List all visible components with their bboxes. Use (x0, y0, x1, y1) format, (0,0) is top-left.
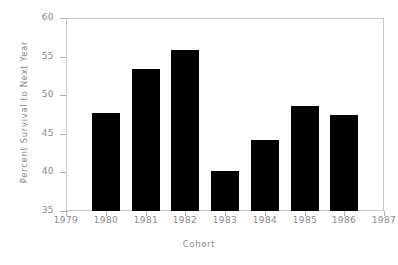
x-tick-label: 1981 (126, 215, 166, 225)
y-tick-label: 35 (28, 205, 54, 215)
x-tick-label: 1982 (165, 215, 205, 225)
x-tick-label: 1984 (245, 215, 285, 225)
x-tick-label: 1983 (205, 215, 245, 225)
x-tick-label: 1979 (46, 215, 86, 225)
y-tick-label: 40 (28, 166, 54, 176)
bar-1983[interactable] (211, 171, 239, 211)
x-axis-title: Cohort (0, 239, 398, 249)
y-axis-title: Percent Survival to Next Year (19, 7, 29, 217)
bar-1985[interactable] (291, 106, 319, 211)
x-tick-label: 1985 (285, 215, 325, 225)
bar-1980[interactable] (92, 113, 120, 211)
bar-1984[interactable] (251, 140, 279, 211)
y-tick-label: 45 (28, 128, 54, 138)
bar-1981[interactable] (132, 69, 160, 211)
x-tick-label: 1987 (364, 215, 398, 225)
y-tick-label: 55 (28, 51, 54, 61)
y-tick-label: 50 (28, 89, 54, 99)
bar-1982[interactable] (171, 50, 199, 211)
bar-1986[interactable] (330, 115, 358, 211)
bar-chart: Percent Survival to Next Year 3540455055… (0, 0, 398, 265)
y-tick-label: 60 (28, 12, 54, 22)
x-tick-label: 1980 (86, 215, 126, 225)
x-tick-label: 1986 (324, 215, 364, 225)
